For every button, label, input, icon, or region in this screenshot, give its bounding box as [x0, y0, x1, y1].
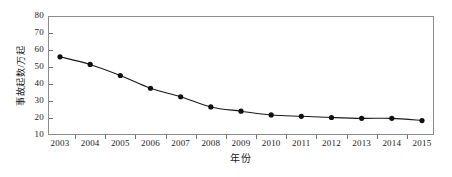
y-axis-tick-mark	[49, 50, 53, 51]
data-point-marker	[57, 54, 62, 59]
x-axis-tick-label: 2014	[382, 138, 401, 148]
data-point-marker	[299, 114, 304, 119]
x-axis-tick-mark	[256, 135, 257, 139]
y-axis-tick-mark	[49, 101, 53, 102]
y-axis-tick-mark	[49, 118, 53, 119]
x-axis-tick-label: 2011	[292, 138, 310, 148]
x-axis-tick-mark	[105, 135, 106, 139]
x-axis-tick-mark	[316, 135, 317, 139]
data-point-marker	[118, 73, 123, 78]
x-axis-tick-label: 2009	[232, 138, 251, 148]
x-axis-tick-label: 2010	[262, 138, 281, 148]
data-point-marker	[238, 109, 243, 114]
x-axis-tick-mark	[166, 135, 167, 139]
x-axis-tick-mark	[135, 135, 136, 139]
x-axis-tick-label: 2004	[81, 138, 100, 148]
x-axis-tick-mark	[377, 135, 378, 139]
line-chart: 1020304050607080 20032004200520062007200…	[0, 0, 452, 177]
x-axis-tick-label: 2013	[352, 138, 371, 148]
x-axis-tick-label: 2003	[51, 138, 70, 148]
data-point-marker	[359, 116, 364, 121]
data-point-marker	[269, 112, 274, 117]
x-axis-tick-mark	[75, 135, 76, 139]
data-point-marker	[88, 62, 93, 67]
x-axis-tick-label: 2015	[413, 138, 432, 148]
x-axis-tick-label: 2012	[322, 138, 341, 148]
y-axis-tick-mark	[49, 33, 53, 34]
data-point-marker	[419, 118, 424, 123]
x-axis-title: 年份	[48, 153, 434, 165]
y-axis-title: 事故起数/万起	[14, 16, 28, 135]
data-point-marker	[148, 86, 153, 91]
x-axis-ticks: 2003200420052006200720082009201020112012…	[48, 138, 434, 152]
x-axis-tick-mark	[286, 135, 287, 139]
x-axis-tick-label: 2007	[171, 138, 190, 148]
x-axis-tick-label: 2005	[111, 138, 130, 148]
data-series-layer	[48, 16, 434, 135]
x-axis-tick-mark	[347, 135, 348, 139]
y-axis-tick-mark	[49, 67, 53, 68]
data-point-marker	[208, 104, 213, 109]
data-point-marker	[389, 116, 394, 121]
data-point-marker	[178, 94, 183, 99]
x-axis-tick-label: 2006	[141, 138, 160, 148]
x-axis-tick-mark	[196, 135, 197, 139]
x-axis-tick-label: 2008	[201, 138, 220, 148]
x-axis-tick-mark	[407, 135, 408, 139]
data-point-marker	[329, 115, 334, 120]
y-axis-tick-mark	[49, 84, 53, 85]
x-axis-tick-mark	[226, 135, 227, 139]
